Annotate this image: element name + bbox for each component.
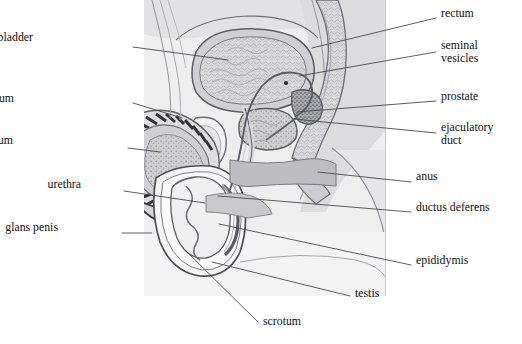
label-corpus-spongiosum: corpus spongiosum xyxy=(0,133,13,147)
label-testis: testis xyxy=(355,286,380,300)
label-line: ductus deferens xyxy=(416,200,490,214)
label-prostate: prostate xyxy=(441,89,478,103)
label-seminal-vesicles: seminalvesicles xyxy=(441,38,479,65)
anatomy-illustration: urinary bladdercorpus cavernosumcorpus s… xyxy=(0,0,522,344)
label-line: vesicles xyxy=(441,51,479,65)
label-line: rectum xyxy=(441,6,474,20)
label-line: corpus cavernosum xyxy=(0,91,14,105)
label-line: prostate xyxy=(441,89,478,103)
label-line: anus xyxy=(416,169,438,183)
label-glans-penis: glans penis xyxy=(5,220,58,234)
ureteric-orifice xyxy=(284,81,288,85)
label-epididymis: epididymis xyxy=(416,253,469,267)
label-urethra: urethra xyxy=(48,177,82,191)
label-line: testis xyxy=(355,286,380,300)
label-line: ejaculatory xyxy=(441,120,494,134)
label-rectum: rectum xyxy=(441,6,474,20)
label-corpus-cavernosum: corpus cavernosum xyxy=(0,91,14,105)
label-line: urethra xyxy=(48,177,82,191)
label-line: duct xyxy=(441,133,462,147)
label-anus: anus xyxy=(416,169,438,183)
label-scrotum: scrotum xyxy=(263,314,301,328)
anatomy-figure: urinary bladdercorpus cavernosumcorpus s… xyxy=(0,0,522,344)
label-line: scrotum xyxy=(263,314,301,328)
label-ductus-deferens: ductus deferens xyxy=(416,200,490,214)
label-urinary-bladder: urinary bladder xyxy=(0,30,33,44)
label-line: glans penis xyxy=(5,220,58,234)
label-ejaculatory-duct: ejaculatoryduct xyxy=(441,120,494,147)
label-line: seminal xyxy=(441,38,478,52)
label-line: urinary bladder xyxy=(0,30,33,44)
label-line: corpus spongiosum xyxy=(0,133,13,147)
label-line: epididymis xyxy=(416,253,469,267)
